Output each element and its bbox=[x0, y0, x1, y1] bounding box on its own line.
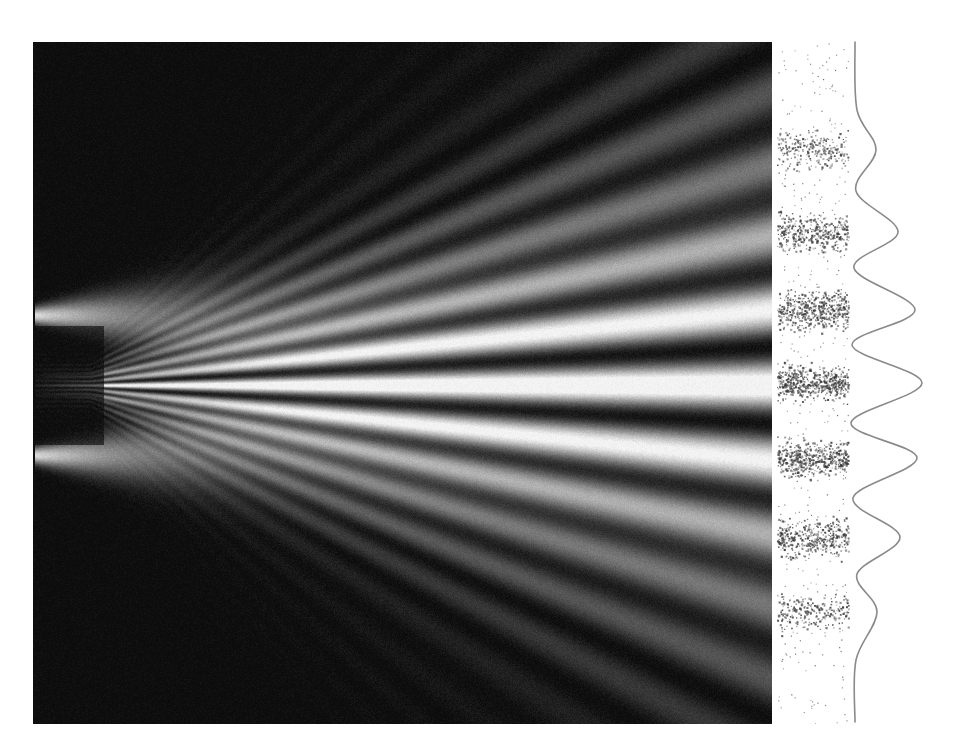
intensity-profile-panel: intensity distribution bbox=[840, 36, 940, 728]
intensity-curve-line bbox=[851, 42, 922, 722]
intensity-profile-curve bbox=[840, 36, 940, 728]
double-slit-figure: Double-slit interference: wave field, pa… bbox=[0, 0, 962, 756]
wave-field-panel: simulated wave intensity bbox=[33, 42, 772, 724]
figure-title: Double-slit interference: wave field, pa… bbox=[0, 0, 1, 1]
wave-field-image bbox=[33, 42, 772, 724]
